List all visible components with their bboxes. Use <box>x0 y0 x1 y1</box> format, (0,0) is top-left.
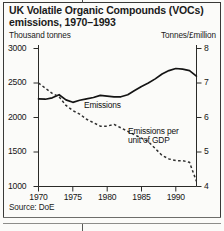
series-label-emissions-per-gdp: Emissions per unit of GDP <box>128 127 179 146</box>
x-tick-label-1970: 1970 <box>24 192 54 202</box>
left-tick-label-3000: 3000 <box>8 43 26 53</box>
left-tick-label-2500: 2500 <box>8 77 26 87</box>
right-axis-ticks <box>197 49 202 187</box>
right-tick-label-7: 7 <box>204 77 209 87</box>
source-note: Source: DoE <box>9 203 54 212</box>
right-tick-label-4: 4 <box>204 181 209 191</box>
series-emissions-line <box>39 69 197 103</box>
right-tick-label-6: 6 <box>204 112 209 122</box>
left-axis-ticks <box>34 49 39 187</box>
left-tick-label-2000: 2000 <box>8 112 26 122</box>
series-label-gdp-line2: unit of GDP <box>128 135 170 145</box>
x-tick-label-1980: 1980 <box>92 192 122 202</box>
right-tick-label-5: 5 <box>204 146 209 156</box>
x-tick-label-1975: 1975 <box>58 192 88 202</box>
x-tick-label-1990: 1990 <box>161 192 191 202</box>
x-axis-ticks <box>39 187 176 192</box>
left-tick-label-1500: 1500 <box>8 146 26 156</box>
right-tick-label-8: 8 <box>204 43 209 53</box>
figure-container: UK Volatile Organic Compounds (VOCs) emi… <box>0 0 224 231</box>
left-tick-label-1000: 1000 <box>8 181 26 191</box>
series-label-emissions: Emissions <box>84 101 121 110</box>
x-tick-label-1985: 1985 <box>127 192 157 202</box>
